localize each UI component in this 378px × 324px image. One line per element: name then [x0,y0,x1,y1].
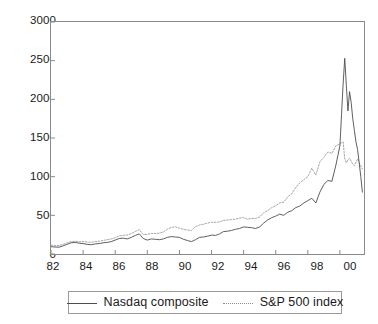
series-line-sp-500-index [51,142,362,246]
legend-item-nasdaq-composite: Nasdaq composite [67,296,209,309]
legend-label: Nasdaq composite [104,296,209,309]
x-tick-label: 88 [137,261,167,273]
legend-solid-line-icon [67,298,97,308]
legend-item-sp-500-index: S&P 500 index [223,296,344,309]
chart-legend: Nasdaq composite S&P 500 index [68,291,342,314]
x-tick-label: 92 [203,261,233,273]
x-tick-label: 98 [302,261,332,273]
x-tick-label: 86 [104,261,134,273]
legend-label: S&P 500 index [260,296,344,309]
x-tick-label: 00 [335,261,365,273]
x-tick-label: 82 [38,261,68,273]
x-tick-label: 94 [236,261,266,273]
plot-area [50,21,365,255]
chart-figure: 3000 2500 2000 1500 1000 500 0 82 84 86 … [0,0,378,324]
x-tick-label: 96 [269,261,299,273]
axis-tickmarks [51,22,340,254]
plot-canvas [51,22,364,254]
legend-dotted-line-icon [223,298,253,308]
series-line-nasdaq-composite [51,58,362,247]
x-tick-label: 90 [170,261,200,273]
x-tick-label: 84 [71,261,101,273]
